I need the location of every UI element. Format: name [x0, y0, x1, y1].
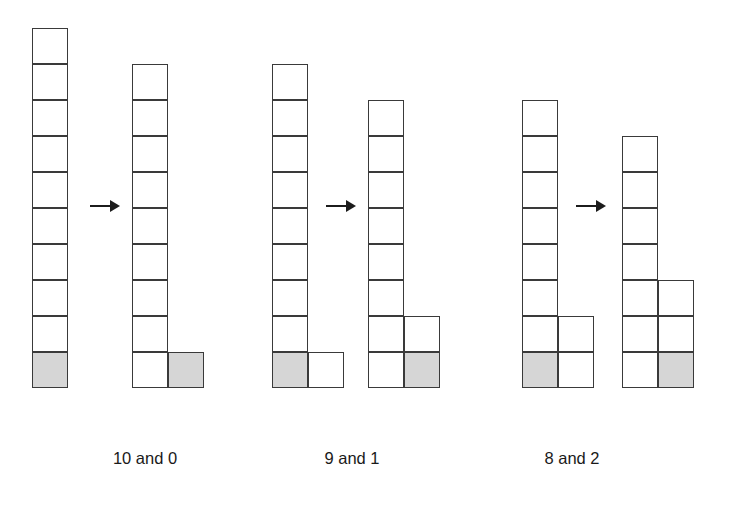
grid-cell [32, 100, 68, 136]
grid-cell [32, 208, 68, 244]
grid-cell [522, 208, 558, 244]
grid-cell [522, 316, 558, 352]
grid-cell [522, 172, 558, 208]
grid-cell [368, 280, 404, 316]
arrow-shaft [90, 205, 111, 207]
grid-cell [32, 136, 68, 172]
grid-cell [558, 316, 594, 352]
group-3-caption: 8 and 2 become 7 and 3 [512, 400, 632, 512]
grid-cell [368, 100, 404, 136]
grid-cell [368, 136, 404, 172]
grid-cell [32, 28, 68, 64]
group-1-caption: 10 and 0 become 9 and 1 [85, 400, 205, 512]
grid-cell-shaded [522, 352, 558, 388]
grid-cell [32, 172, 68, 208]
grid-cell [368, 352, 404, 388]
grid-cell [622, 208, 658, 244]
group-2-becomes-arrow [326, 200, 356, 212]
grid-cell [272, 208, 308, 244]
grid-cell [272, 100, 308, 136]
grid-cell [368, 316, 404, 352]
grid-cell [132, 280, 168, 316]
grid-cell [32, 64, 68, 100]
grid-cell [132, 172, 168, 208]
group-2-caption-line-1: 9 and 1 [292, 447, 412, 470]
arrow-shaft [326, 205, 347, 207]
group-2-caption: 9 and 1 become 8 and 2 [292, 400, 412, 512]
grid-cell [658, 280, 694, 316]
grid-cell [132, 244, 168, 280]
grid-cell [132, 136, 168, 172]
grid-cell [32, 244, 68, 280]
grid-cell [622, 136, 658, 172]
grid-cell [272, 172, 308, 208]
grid-cell-shaded [404, 352, 440, 388]
grid-cell [272, 64, 308, 100]
grid-cell [272, 316, 308, 352]
grid-cell [272, 244, 308, 280]
grid-cell [132, 352, 168, 388]
grid-cell [32, 316, 68, 352]
group-1-caption-line-1: 10 and 0 [85, 447, 205, 470]
grid-cell [132, 100, 168, 136]
arrow-head [110, 200, 120, 212]
grid-cell [522, 280, 558, 316]
group-3-becomes-arrow [576, 200, 606, 212]
arrow-head [596, 200, 606, 212]
arrow-shaft [576, 205, 597, 207]
arrow-head [346, 200, 356, 212]
group-1-becomes-arrow [90, 200, 120, 212]
grid-cell [32, 280, 68, 316]
grid-cell [622, 352, 658, 388]
grid-cell [132, 64, 168, 100]
grid-cell [522, 100, 558, 136]
grid-cell [368, 244, 404, 280]
grid-cell [272, 136, 308, 172]
grid-cell [368, 172, 404, 208]
grid-cell [308, 352, 344, 388]
grid-cell [622, 172, 658, 208]
group-3-caption-line-1: 8 and 2 [512, 447, 632, 470]
grid-cell-shaded [32, 352, 68, 388]
grid-cell [622, 244, 658, 280]
grid-cell [404, 316, 440, 352]
grid-cell [522, 244, 558, 280]
grid-cell [272, 280, 308, 316]
grid-cell-shaded [168, 352, 204, 388]
grid-cell-shaded [272, 352, 308, 388]
grid-cell [622, 316, 658, 352]
grid-cell [622, 280, 658, 316]
grid-cell [558, 352, 594, 388]
grid-cell [522, 136, 558, 172]
grid-cell-shaded [658, 352, 694, 388]
grid-cell [368, 208, 404, 244]
diagram-canvas: 10 and 0 become 9 and 1 9 and 1 become 8… [0, 0, 730, 512]
grid-cell [132, 208, 168, 244]
grid-cell [658, 316, 694, 352]
grid-cell [132, 316, 168, 352]
